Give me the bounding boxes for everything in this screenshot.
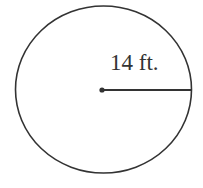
circle-diagram: 14 ft. (0, 0, 203, 188)
center-point (99, 87, 104, 92)
radius-label: 14 ft. (110, 50, 159, 75)
